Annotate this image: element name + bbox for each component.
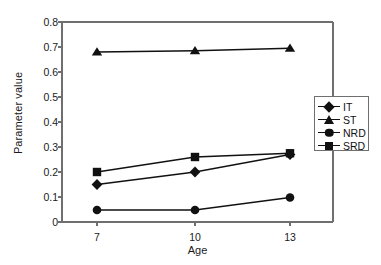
y-axis-title: Parameter value [8,0,28,225]
legend-label: NRD [343,127,366,139]
legend-item-it[interactable]: IT [318,100,352,113]
x-tick-label: 13 [284,231,296,243]
chart-figure: 00.10.20.30.40.50.60.70.8 71013 Paramete… [0,0,381,265]
triangle-marker-icon [318,113,340,126]
x-tick-label: 10 [189,231,201,243]
circle-marker-icon [318,126,340,139]
y-axis-title-text: Parameter value [12,71,24,153]
legend-item-srd[interactable]: SRD [318,139,365,152]
legend-label: IT [343,101,352,113]
x-axis-title: Age [62,244,333,256]
legend: ITSTNRDSRD [314,96,369,151]
square-marker-icon [318,139,340,152]
legend-item-st[interactable]: ST [318,113,356,126]
diamond-marker-icon [318,100,340,113]
x-tick-label: 7 [94,231,100,243]
legend-item-nrd[interactable]: NRD [318,126,366,139]
legend-label: ST [343,114,356,126]
legend-label: SRD [343,140,365,152]
